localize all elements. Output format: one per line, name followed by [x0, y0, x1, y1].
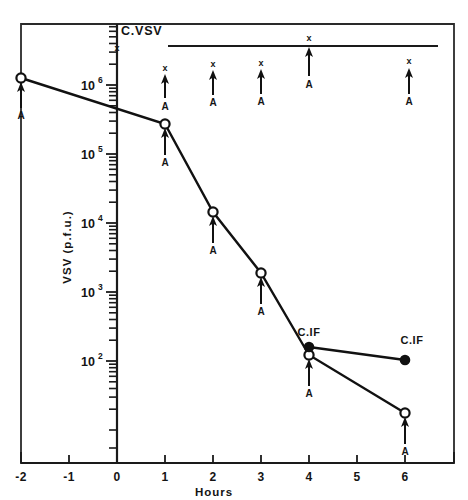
chart-svg: -2 -1 0 1 2 3 4 5 6 Hours	[0, 0, 468, 500]
arrow-label-a: A	[209, 97, 216, 108]
x-tick-label-0: -2	[15, 470, 27, 484]
series-c-vsv-markers: x x A x A x A	[114, 33, 413, 112]
arrow-label-a: A	[305, 79, 312, 90]
x-marker: x	[258, 58, 263, 68]
series-label-c-if-hour4: C.IF	[297, 326, 320, 338]
svg-text:2: 2	[98, 351, 103, 361]
series-label-c-vsv: C.VSV	[121, 24, 163, 38]
y-tick-label-1e4: 10 4	[81, 213, 103, 231]
x-axis-tick-labels: -2 -1 0 1 2 3 4 5 6	[15, 470, 408, 484]
data-point-open	[16, 73, 25, 82]
x-tick-label-3: 1	[161, 470, 168, 484]
svg-text:10: 10	[81, 79, 95, 93]
x-marker: x	[162, 63, 167, 73]
arrow-group-hour-neg2: A	[17, 82, 25, 121]
svg-text:6: 6	[98, 75, 103, 85]
y-axis-title: VSV (p.f.u.)	[61, 210, 73, 283]
data-point-open	[400, 408, 409, 417]
arrow-label-a: A	[257, 306, 264, 317]
x-marker: x	[210, 59, 215, 69]
y-tick-label-1e2: 10 2	[81, 351, 103, 369]
x-marker-group-hour3: x A	[257, 58, 265, 107]
x-marker-group-hour6: x A	[405, 56, 413, 107]
x-tick-label-5: 3	[257, 470, 264, 484]
arrow-label-a: A	[17, 110, 24, 121]
arrow-group-hour6: A	[401, 417, 409, 457]
x-marker-group-hour2: x A	[209, 59, 217, 108]
svg-text:10: 10	[81, 286, 95, 300]
svg-text:10: 10	[81, 217, 95, 231]
x-tick-label-2: 0	[113, 470, 120, 484]
x-marker: x	[406, 56, 411, 66]
y-tick-label-1e5: 10 5	[81, 144, 103, 162]
x-marker: x	[306, 33, 311, 43]
x-axis-title: Hours	[195, 486, 233, 498]
y-tick-label-1e6: 10 6	[81, 75, 103, 93]
arrow-group-hour2: A	[209, 216, 217, 256]
x-axis-ticks	[21, 452, 454, 463]
y-axis: 10 6 10 5 10 4 10 3 10 2	[61, 24, 117, 463]
arrow-label-a: A	[401, 446, 408, 457]
arrow-group-hour4: A	[305, 359, 313, 399]
data-point-filled	[305, 343, 314, 352]
arrow-annotations-vsv: A A A A A	[17, 82, 409, 457]
series-label-c-if-hour6: C.IF	[400, 334, 423, 346]
x-tick-label-4: 2	[209, 470, 216, 484]
svg-text:10: 10	[81, 355, 95, 369]
arrow-label-a: A	[161, 157, 168, 168]
arrow-group-hour1: A	[161, 128, 169, 168]
c-if-polyline	[309, 347, 405, 360]
x-tick-label-6: 4	[305, 470, 312, 484]
svg-text:4: 4	[98, 213, 103, 223]
data-point-open	[208, 207, 217, 216]
svg-text:10: 10	[81, 148, 95, 162]
x-tick-label-1: -1	[63, 470, 75, 484]
arrow-label-a: A	[209, 245, 216, 256]
x-marker-group-hour4: x A	[305, 33, 313, 90]
x-marker-group-hour1: x A	[161, 63, 169, 112]
y-axis-tick-labels: 10 6 10 5 10 4 10 3 10 2	[81, 75, 103, 369]
svg-text:3: 3	[98, 282, 103, 292]
data-point-open	[160, 119, 169, 128]
data-point-filled	[401, 356, 410, 365]
x-marker-axis: x	[114, 43, 119, 53]
figure-panel: -2 -1 0 1 2 3 4 5 6 Hours	[0, 0, 468, 500]
arrow-group-hour3: A	[257, 277, 265, 317]
x-tick-label-7: 5	[353, 470, 360, 484]
x-axis: -2 -1 0 1 2 3 4 5 6 Hours	[15, 452, 454, 498]
arrow-label-a: A	[405, 96, 412, 107]
arrow-label-a: A	[257, 96, 264, 107]
x-tick-label-8: 6	[401, 470, 408, 484]
y-axis-minor-ticks	[109, 27, 117, 448]
y-tick-label-1e3: 10 3	[81, 282, 103, 300]
arrow-label-a: A	[305, 388, 312, 399]
data-point-open	[256, 268, 265, 277]
arrow-label-a: A	[161, 101, 168, 112]
svg-text:5: 5	[98, 144, 103, 154]
